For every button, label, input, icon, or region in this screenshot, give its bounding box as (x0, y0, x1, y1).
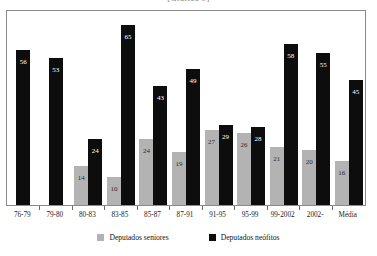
bar-neofitos: 56 (16, 50, 30, 205)
bar-value-label: 29 (219, 133, 233, 141)
bar-value-label: 56 (16, 58, 30, 66)
legend-item-neofitos: Deputados neófitos (209, 233, 280, 242)
bar-value-label: 16 (335, 169, 349, 177)
x-axis-label: 95-99 (234, 210, 267, 220)
bar-value-label: 14 (74, 174, 88, 182)
bar-group: 2628 (235, 11, 268, 205)
bar-seniores: 27 (205, 130, 219, 205)
bar-value-label: 26 (237, 141, 251, 149)
bar-neofitos: 28 (251, 127, 265, 205)
legend-swatch-icon-seniores (97, 234, 104, 241)
legend-swatch-icon-neofitos (209, 234, 216, 241)
bar-neofitos: 55 (316, 53, 330, 205)
legend-item-seniores: Deputados seniores (97, 233, 168, 242)
x-axis-label: 87-91 (169, 210, 202, 220)
plot-area: 5653142410652443194927292628215820551645 (7, 11, 365, 205)
bar-neofitos: 58 (284, 44, 298, 205)
bar-neofitos: 65 (121, 25, 135, 205)
bar-group: 2443 (137, 11, 170, 205)
x-axis-labels: 76-7979-8080-8383-8585-8787-9191-9595-99… (6, 210, 366, 222)
bar-value-label: 45 (349, 88, 363, 96)
x-axis-label: 2002- (299, 210, 332, 220)
bar-seniores: 19 (172, 152, 186, 205)
x-axis-label: 85-87 (136, 210, 169, 220)
bar-group: 2055 (300, 11, 333, 205)
bar-value-label: 65 (121, 33, 135, 41)
bar-group: 56 (7, 11, 40, 205)
bar-chart-figure: [Gráfico 5] 5653142410652443194927292628… (0, 0, 377, 256)
x-axis-label: 79-80 (39, 210, 72, 220)
bar-value-label: 53 (49, 66, 63, 74)
x-axis-label: Média (331, 210, 364, 220)
bar-seniores: 26 (237, 133, 251, 205)
bar-group: 2158 (267, 11, 300, 205)
bar-group: 1949 (170, 11, 203, 205)
bar-seniores: 24 (139, 139, 153, 206)
bar-neofitos: 43 (153, 86, 167, 205)
x-axis-label: 83-85 (104, 210, 137, 220)
bar-value-label: 43 (153, 94, 167, 102)
bar-group: 1645 (332, 11, 365, 205)
bar-value-label: 27 (205, 138, 219, 146)
bar-group: 53 (40, 11, 73, 205)
bar-neofitos: 45 (349, 80, 363, 205)
bar-seniores: 16 (335, 161, 349, 205)
bar-group: 1065 (105, 11, 138, 205)
bar-value-label: 10 (107, 185, 121, 193)
legend-label-neofitos: Deputados neófitos (221, 233, 280, 242)
x-axis-label: 76-79 (6, 210, 39, 220)
bar-value-label: 58 (284, 52, 298, 60)
bar-neofitos: 24 (88, 139, 102, 206)
bar-value-label: 24 (88, 147, 102, 155)
bar-seniores: 21 (270, 147, 284, 205)
chart-legend: Deputados seniores Deputados neófitos (0, 233, 377, 242)
bar-value-label: 49 (186, 77, 200, 85)
bar-group: 2729 (202, 11, 235, 205)
bar-value-label: 21 (270, 155, 284, 163)
x-axis-label: 99-2002 (266, 210, 299, 220)
bar-value-label: 28 (251, 135, 265, 143)
bar-neofitos: 29 (219, 125, 233, 205)
bar-seniores: 10 (107, 177, 121, 205)
bar-value-label: 24 (139, 147, 153, 155)
bar-value-label: 19 (172, 160, 186, 168)
chart-title: [Gráfico 5] (0, 0, 377, 2)
legend-label-seniores: Deputados seniores (109, 233, 168, 242)
x-axis-label: 80-83 (71, 210, 104, 220)
bar-seniores: 20 (302, 150, 316, 205)
bar-seniores: 14 (74, 166, 88, 205)
x-axis-label: 91-95 (201, 210, 234, 220)
bar-neofitos: 49 (186, 69, 200, 205)
bar-value-label: 55 (316, 61, 330, 69)
bar-value-label: 20 (302, 158, 316, 166)
bar-group: 1424 (72, 11, 105, 205)
bar-neofitos: 53 (49, 58, 63, 205)
